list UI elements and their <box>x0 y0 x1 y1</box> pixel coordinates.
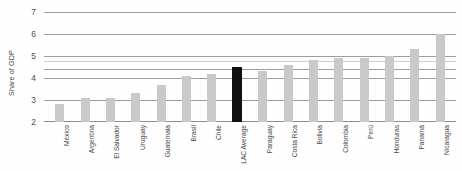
bar-slot <box>301 12 326 122</box>
bar <box>258 71 267 122</box>
x-tick-label: LAC Average <box>241 125 248 164</box>
x-label-slot: El Salvador <box>98 124 123 171</box>
bar <box>157 85 166 122</box>
bar <box>334 58 343 122</box>
y-tick-label: 7 <box>31 8 36 16</box>
x-label-slot: México <box>47 124 72 171</box>
bar <box>385 56 394 122</box>
bar <box>309 60 318 122</box>
x-tick-label: Chile <box>216 125 223 140</box>
bar-slot <box>352 12 377 122</box>
x-tick-label: Paraguay <box>267 125 274 153</box>
bar-slot <box>72 12 97 122</box>
x-tick-label: Uruguay <box>140 125 147 150</box>
x-label-slot: Paraguay <box>250 124 275 171</box>
x-tick-label: México <box>64 125 71 146</box>
plot-area <box>44 12 456 122</box>
x-label-slot: Brasil <box>174 124 199 171</box>
x-tick-label: Perú <box>368 125 375 139</box>
bar <box>131 93 140 122</box>
x-label-slot: Bolivia <box>301 124 326 171</box>
x-label-slot: Chile <box>199 124 224 171</box>
x-axis-tick-labels: MéxicoArgentinaEl SalvadorUruguayGuatema… <box>44 124 456 171</box>
bar-slot <box>149 12 174 122</box>
bar <box>284 65 293 122</box>
bar <box>410 49 419 122</box>
x-tick-label: Panamá <box>419 125 426 150</box>
x-tick-label: Bolivia <box>317 125 324 144</box>
x-label-slot: Nicaragua <box>428 124 453 171</box>
x-label-slot: Perú <box>352 124 377 171</box>
x-tick-label: Colombia <box>343 125 350 153</box>
bar-slot <box>326 12 351 122</box>
bar-slot <box>250 12 275 122</box>
bar-slot <box>377 12 402 122</box>
bar-slot <box>199 12 224 122</box>
bar-series <box>44 12 456 122</box>
x-tick-label: El Salvador <box>114 125 121 159</box>
bar <box>360 58 369 122</box>
bar-slot <box>98 12 123 122</box>
bar-chart: Share of GDP 7 6 5 4 3 2 MéxicoArgentina… <box>0 0 462 171</box>
bar-slot <box>225 12 250 122</box>
y-tick-label: 3 <box>31 96 36 104</box>
bar <box>436 34 445 122</box>
y-tick-label: 2 <box>31 118 36 126</box>
x-tick-label: Argentina <box>89 125 96 153</box>
bar <box>207 74 216 122</box>
x-label-slot: Costa Rica <box>275 124 300 171</box>
y-tick-label: 5 <box>31 52 36 60</box>
x-tick-label: Guatemala <box>165 125 172 157</box>
x-label-slot: Argentina <box>72 124 97 171</box>
x-tick-label: Honduras <box>394 125 401 154</box>
y-tick-label: 6 <box>31 30 36 38</box>
y-tick-label: 4 <box>31 74 36 82</box>
x-label-slot: LAC Average <box>225 124 250 171</box>
bar <box>81 98 90 122</box>
x-label-slot: Honduras <box>377 124 402 171</box>
bar <box>232 67 242 122</box>
x-tick-label: Brasil <box>191 125 198 142</box>
y-axis-tick-labels: 7 6 5 4 3 2 <box>0 0 44 171</box>
x-tick-label: Nicaragua <box>444 125 451 155</box>
x-label-slot: Uruguay <box>123 124 148 171</box>
bar-slot <box>174 12 199 122</box>
bar <box>55 104 64 122</box>
bar-slot <box>402 12 427 122</box>
x-tick-label: Costa Rica <box>292 125 299 157</box>
x-label-slot: Guatemala <box>149 124 174 171</box>
bar <box>106 98 115 122</box>
x-label-slot: Colombia <box>326 124 351 171</box>
x-label-slot: Panamá <box>402 124 427 171</box>
bar-slot <box>123 12 148 122</box>
bar <box>182 76 191 122</box>
bar-slot <box>275 12 300 122</box>
bar-slot <box>47 12 72 122</box>
bar-slot <box>428 12 453 122</box>
